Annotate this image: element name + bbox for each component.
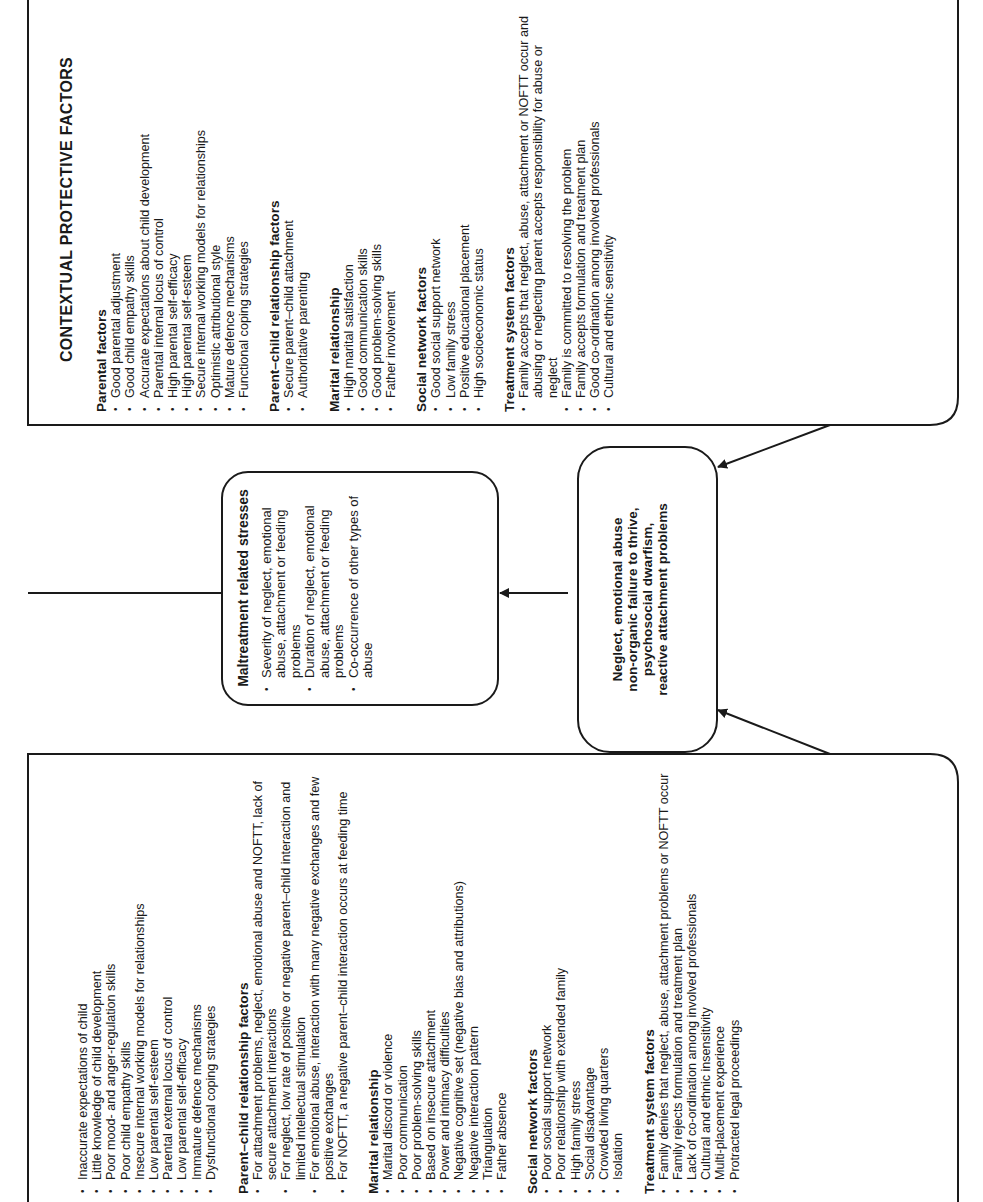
section-title: Parental factors [94, 7, 109, 412]
list-item: Marital discord or violence [381, 764, 395, 1194]
list-item: For neglect, low rate of positive or neg… [279, 764, 307, 1194]
protective-section-marital: Marital relationship High marital satisf… [327, 7, 399, 412]
list-item: High socioeconomic status [472, 7, 486, 412]
maltreatment-stresses-box: Maltreatment related stresses Severity o… [236, 484, 376, 692]
list-item: Poor social support network [540, 764, 554, 1194]
list-item: Cultural and ethnic sensitivity [602, 7, 616, 412]
section-title: Parent–child relationship factors [267, 7, 282, 412]
outcome-line: non-organic failure to thrive, [625, 455, 640, 744]
list-item: Good child empathy skills [123, 7, 137, 412]
list-item: Little knowledge of child development [90, 764, 104, 1194]
list-item: Positive educational placement [458, 7, 472, 412]
risk-section-treatment: Treatment system factors Family denies t… [642, 764, 742, 1194]
protective-section-parental: Parental factors Good parental adjustmen… [94, 7, 251, 412]
list-item: Poor child empathy skills [119, 764, 133, 1194]
list-item: Functional coping strategies [237, 7, 251, 412]
list-item: Good problem-solving skills [370, 7, 384, 412]
list-item: Isolation [611, 764, 625, 1194]
section-title: Treatment system factors [642, 764, 657, 1194]
list-item: Duration of neglect, emotional abuse, at… [303, 484, 347, 692]
risk-social-list: Poor social support network Poor relatio… [540, 764, 625, 1194]
protective-factors-title: CONTEXTUAL PROTECTIVE FACTORS [60, 7, 74, 412]
protective-section-social: Social network factors Good social suppo… [414, 7, 486, 412]
outcome-box: Neglect, emotional abuse non-organic fai… [610, 455, 670, 744]
section-title: Treatment system factors [502, 7, 517, 412]
list-item: Accurate expectations about child develo… [138, 7, 152, 412]
list-item: Good communication skills [356, 7, 370, 412]
maltreatment-list: Severity of neglect, emotional abuse, at… [260, 484, 376, 692]
section-title: Marital relationship [327, 7, 342, 412]
outcome-line: Neglect, emotional abuse [610, 455, 625, 744]
list-item: Based on insecure attachment [424, 764, 438, 1194]
list-item: Good parental adjustment [109, 7, 123, 412]
list-item: Severity of neglect, emotional abuse, at… [260, 484, 304, 692]
protective-marital-list: High marital satisfaction Good communica… [342, 7, 399, 412]
risk-section-parental: Inaccurate expectations of child Little … [76, 764, 218, 1194]
list-item: Parental external locus of control [161, 764, 175, 1194]
list-item: Immature defence mechanisms [190, 764, 204, 1194]
list-item: Family is committed to resolving the pro… [560, 7, 574, 412]
list-item: Parental internal locus of control [152, 7, 166, 412]
list-item: Father absence [495, 764, 509, 1194]
list-item: Low family stress [444, 7, 458, 412]
list-item: Poor relationship with extended family [554, 764, 568, 1194]
diagram-stage: Inaccurate expectations of child Little … [0, 0, 983, 1202]
list-item: For emotional abuse, interaction with ma… [308, 764, 336, 1194]
risk-parental-list: Inaccurate expectations of child Little … [76, 764, 218, 1194]
arrow-risk-to-outcome [718, 710, 830, 754]
list-item: High parental self-esteem [180, 7, 194, 412]
list-item: Poor mood- and anger-regulation skills [104, 764, 118, 1194]
list-item: Lack of co-ordination among involved pro… [685, 764, 699, 1194]
maltreatment-title: Maltreatment related stresses [236, 484, 252, 692]
risk-parent-child-list: For attachment problems, neglect, emotio… [251, 764, 350, 1194]
list-item: Good social support network [429, 7, 443, 412]
list-item: Family accepts formulation and treatment… [574, 7, 588, 412]
list-item: High marital satisfaction [342, 7, 356, 412]
list-item: Triangulation [481, 764, 495, 1194]
list-item: Insecure internal working models for rel… [133, 764, 147, 1194]
risk-section-marital: Marital relationship Marital discord or … [366, 764, 509, 1194]
outcome-line: reactive attachment problems [655, 455, 670, 744]
list-item: For NOFTT, a negative parent–child inter… [336, 764, 350, 1194]
section-title: Marital relationship [366, 764, 381, 1194]
list-item: Negative cognitive set (negative bias an… [452, 764, 466, 1194]
list-item: Power and intimacy difficulties [438, 764, 452, 1194]
section-title: Parent–child relationship factors [236, 764, 251, 1194]
list-item: Secure internal working models for relat… [194, 7, 208, 412]
section-title: Social network factors [414, 7, 429, 412]
list-item: Mature defence mechanisms [223, 7, 237, 412]
risk-section-social: Social network factors Poor social suppo… [525, 764, 625, 1194]
list-item: Negative interaction pattern [467, 764, 481, 1194]
list-item: Low parental self-efficacy [175, 764, 189, 1194]
list-item: Low parental self-esteem [147, 764, 161, 1194]
protective-factors-panel: CONTEXTUAL PROTECTIVE FACTORS Parental f… [32, 7, 631, 412]
list-item: Cultural and ethnic insensitivity [699, 764, 713, 1194]
risk-factors-panel: Inaccurate expectations of child Little … [76, 764, 756, 1194]
list-item: Co-occurrence of other types of abuse [347, 484, 376, 692]
list-item: Poor communication [396, 764, 410, 1194]
list-item: Family denies that neglect, abuse, attac… [657, 764, 671, 1194]
list-item: Authoritative parenting [296, 7, 310, 412]
arrow-protective-to-outcome [718, 425, 830, 467]
protective-treatment-list: Family accepts that neglect, abuse, atta… [517, 7, 616, 412]
list-item: Protracted legal proceedings [728, 764, 742, 1194]
list-item: High parental self-efficacy [166, 7, 180, 412]
list-item: Good co-ordination among involved profes… [588, 7, 602, 412]
risk-section-parent-child: Parent–child relationship factors For at… [236, 764, 350, 1194]
list-item: For attachment problems, neglect, emotio… [251, 764, 279, 1194]
protective-parental-list: Good parental adjustment Good child empa… [109, 7, 251, 412]
outcome-line: psychosocial dwarfism, [640, 455, 655, 744]
risk-marital-list: Marital discord or violence Poor communi… [381, 764, 509, 1194]
protective-social-list: Good social support network Low family s… [429, 7, 486, 412]
protective-parent-child-list: Secure parent–child attachment Authorita… [282, 7, 310, 412]
list-item: Optimistic attributional style [209, 7, 223, 412]
list-item: Inaccurate expectations of child [76, 764, 90, 1194]
risk-treatment-list: Family denies that neglect, abuse, attac… [657, 764, 742, 1194]
list-item: Dysfunctional coping strategies [204, 764, 218, 1194]
list-item: Social disadvantage [583, 764, 597, 1194]
list-item: High family stress [569, 764, 583, 1194]
list-item: Secure parent–child attachment [282, 7, 296, 412]
list-item: Family rejects formulation and treatment… [671, 764, 685, 1194]
protective-section-treatment: Treatment system factors Family accepts … [502, 7, 616, 412]
list-item: Family accepts that neglect, abuse, atta… [517, 7, 560, 412]
